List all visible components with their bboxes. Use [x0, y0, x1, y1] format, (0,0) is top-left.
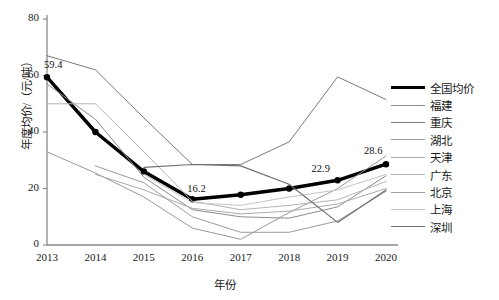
legend-label: 天津 [430, 149, 452, 165]
x-tick-label: 2017 [219, 251, 263, 263]
y-axis-title: 年度均价/（元/吨） [18, 33, 34, 173]
legend-label: 重庆 [430, 114, 452, 130]
legend-swatch-line [391, 86, 425, 89]
legend-swatch-line [391, 157, 425, 158]
series-line-广东 [47, 104, 386, 210]
series-marker-全国均价 [92, 129, 98, 135]
chart-figure: 020406080 201320142015201620172018201920… [0, 0, 499, 300]
legend-item-福建[interactable]: 福建 [391, 96, 497, 113]
series-marker-全国均价 [238, 192, 244, 198]
legend-label: 湖北 [430, 132, 452, 148]
legend-item-深圳[interactable]: 深圳 [391, 218, 497, 235]
data-label: 16.2 [187, 183, 205, 194]
x-tick-label: 2018 [267, 251, 311, 263]
data-label: 22.9 [312, 163, 330, 174]
legend-item-湖北[interactable]: 湖北 [391, 131, 497, 148]
legend-swatch-line [391, 226, 425, 227]
series-marker-全国均价 [383, 161, 389, 167]
series-line-重庆 [47, 56, 386, 165]
legend-label: 广东 [430, 167, 452, 183]
legend-item-北京[interactable]: 北京 [391, 183, 497, 200]
x-tick-label: 2013 [25, 251, 69, 263]
series-layer [44, 56, 389, 240]
legend-label: 福建 [430, 97, 452, 113]
legend-item-广东[interactable]: 广东 [391, 166, 497, 183]
legend-swatch-line [391, 105, 425, 106]
legend-label: 全国均价 [430, 80, 474, 96]
data-label: 28.6 [364, 145, 382, 156]
legend-item-重庆[interactable]: 重庆 [391, 114, 497, 131]
y-tick-label: 20 [13, 181, 39, 193]
series-marker-全国均价 [334, 177, 340, 183]
legend-swatch-line [391, 122, 425, 123]
y-tick-label: 80 [13, 11, 39, 23]
legend-label: 深圳 [430, 219, 452, 235]
legend-swatch-line [391, 192, 425, 193]
legend-label: 北京 [430, 184, 452, 200]
x-tick-label: 2020 [364, 251, 408, 263]
x-tick-label: 2014 [73, 251, 117, 263]
x-axis-title: 年份 [130, 276, 320, 292]
legend-item-天津[interactable]: 天津 [391, 149, 497, 166]
series-marker-全国均价 [44, 74, 50, 80]
legend-swatch-line [391, 139, 425, 140]
legend-item-全国均价[interactable]: 全国均价 [391, 79, 497, 96]
legend-swatch-line [391, 209, 425, 210]
data-label: 59.4 [44, 59, 62, 70]
legend-label: 上海 [430, 201, 452, 217]
y-tick-label: 0 [13, 237, 39, 249]
legend-swatch-line [391, 174, 425, 175]
series-line-北京 [95, 166, 386, 232]
x-tick-label: 2016 [170, 251, 214, 263]
x-tick-label: 2015 [122, 251, 166, 263]
chart-legend: 全国均价福建重庆湖北天津广东北京上海深圳 [391, 79, 497, 236]
legend-item-上海[interactable]: 上海 [391, 201, 497, 218]
x-tick-label: 2019 [316, 251, 360, 263]
